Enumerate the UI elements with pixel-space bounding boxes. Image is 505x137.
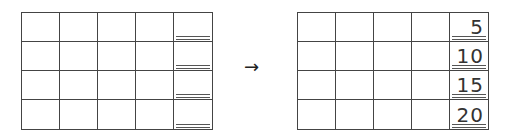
- double-underline: [176, 36, 210, 40]
- grid-cell: [60, 71, 98, 100]
- grid-cell: [374, 13, 412, 42]
- total-value: 10: [457, 46, 484, 66]
- grid-cell: [136, 42, 174, 71]
- grid-cell: [98, 42, 136, 71]
- after-grid: 5 10 15 20: [297, 12, 489, 130]
- grid-cell: [374, 100, 412, 129]
- grid-cell: [336, 13, 374, 42]
- total-cell: [174, 42, 212, 71]
- grid-cell: [60, 100, 98, 129]
- grid-cell: [298, 100, 336, 129]
- grid-cell: [412, 71, 450, 100]
- grid-cell: [336, 100, 374, 129]
- grid-cell: [98, 100, 136, 129]
- total-cell: 5: [450, 13, 488, 42]
- grid-cell: [298, 42, 336, 71]
- grid-cell: [98, 71, 136, 100]
- grid-cell: [60, 13, 98, 42]
- right-arrow-icon: →: [244, 59, 259, 75]
- double-underline: [176, 94, 210, 98]
- grid-cell: [412, 13, 450, 42]
- double-underline: [452, 124, 486, 128]
- grid-cell: [136, 13, 174, 42]
- total-cell: 15: [450, 71, 488, 100]
- total-value: 20: [457, 105, 484, 125]
- grid-cell: [298, 13, 336, 42]
- total-cell: [174, 13, 212, 42]
- total-cell: 10: [450, 42, 488, 71]
- total-cell: [174, 100, 212, 129]
- grid-cell: [136, 71, 174, 100]
- grid-cell: [22, 13, 60, 42]
- grid-cell: [374, 42, 412, 71]
- grid-cell: [336, 42, 374, 71]
- grid-cell: [22, 100, 60, 129]
- before-grid: [21, 12, 213, 130]
- double-underline: [452, 36, 486, 40]
- grid-cell: [22, 71, 60, 100]
- grid-cell: [22, 42, 60, 71]
- total-value: 15: [457, 75, 484, 95]
- double-underline: [176, 65, 210, 69]
- grid-cell: [98, 13, 136, 42]
- grid-cell: [60, 42, 98, 71]
- grid-cell: [412, 42, 450, 71]
- double-underline: [452, 94, 486, 98]
- total-cell: 20: [450, 100, 488, 129]
- total-value: 5: [470, 17, 484, 37]
- grid-cell: [136, 100, 174, 129]
- double-underline: [176, 124, 210, 128]
- grid-cell: [374, 71, 412, 100]
- grid-cell: [336, 71, 374, 100]
- double-underline: [452, 65, 486, 69]
- total-cell: [174, 71, 212, 100]
- grid-cell: [412, 100, 450, 129]
- grid-cell: [298, 71, 336, 100]
